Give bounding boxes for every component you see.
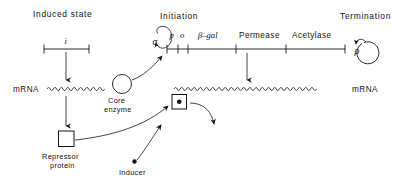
core-enzyme-circle bbox=[113, 75, 132, 94]
operon-mrna-label: mRNA bbox=[352, 85, 378, 94]
lac-operon-induction-diagram: Induced state i mRNA Repressor protein I… bbox=[0, 0, 396, 182]
sigma-factor-label: σ bbox=[153, 36, 159, 47]
repressor-protein-label-line2: protein bbox=[50, 161, 75, 170]
inducer-to-complex-arrow bbox=[137, 125, 161, 160]
regulator-mrna-strand bbox=[47, 87, 105, 90]
operon-segment-label-beta-gal: β–gal bbox=[197, 30, 218, 40]
rho-factor-arrow bbox=[356, 39, 366, 44]
core-enzyme-label-line2: enzyme bbox=[104, 105, 132, 114]
operon-segment-label-permease: Permease bbox=[239, 31, 280, 40]
operon-segment-label-p: p bbox=[169, 30, 175, 40]
repressor-protein-label-line1: Repressor bbox=[42, 152, 79, 161]
regulator-mrna-label: mRNA bbox=[13, 85, 39, 94]
operon-segment-label-acetylase: Acetylase bbox=[292, 31, 332, 40]
inducer-dot bbox=[132, 159, 136, 163]
initiation-title: Initiation bbox=[160, 11, 198, 21]
termination-title: Termination bbox=[340, 11, 391, 21]
rho-factor-circle bbox=[357, 42, 379, 64]
core-enzyme-label-line1: Core bbox=[108, 96, 125, 105]
repressor-protein-box bbox=[59, 131, 75, 147]
operon-mrna-strand bbox=[174, 87, 317, 90]
regulator-gene-label: i bbox=[65, 36, 68, 46]
core-enzyme-binding-arrow bbox=[132, 56, 162, 80]
diagram-canvas: Induced state i mRNA Repressor protein I… bbox=[0, 0, 396, 182]
complex-release-arrow bbox=[190, 103, 214, 124]
rho-factor-label: ρ bbox=[354, 45, 360, 56]
induced-state-title: Induced state bbox=[33, 9, 92, 19]
operon-segment-label-o: o bbox=[180, 30, 185, 40]
inducer-label: Inducer bbox=[119, 168, 146, 177]
repressor-inducer-complex-dot bbox=[177, 99, 182, 104]
